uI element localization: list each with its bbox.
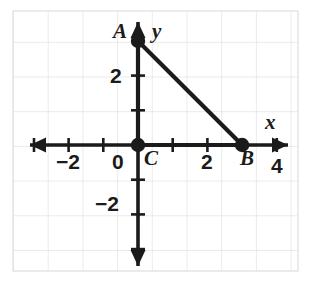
point-label-c: C: [144, 148, 158, 169]
coordinate-plane-figure: A C B y x 0 −2 2 4 2 −2: [0, 0, 317, 285]
y-tick-label-2: 2: [110, 65, 122, 86]
y-axis-name: y: [152, 21, 161, 42]
x-tick-label-neg2: −2: [56, 151, 80, 172]
background-grid: [13, 11, 298, 271]
x-tick-label-4: 4: [271, 155, 283, 176]
x-tick-label-2: 2: [201, 151, 213, 172]
origin-label: 0: [112, 151, 124, 172]
x-axis-name: x: [265, 112, 276, 133]
point-label-a: A: [113, 21, 127, 42]
y-tick-label-neg2: −2: [95, 193, 119, 214]
point-a: [131, 34, 145, 48]
point-label-b: B: [240, 148, 254, 169]
